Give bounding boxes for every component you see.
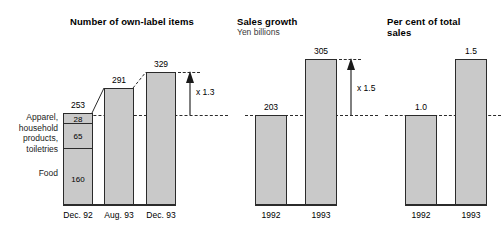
panel3-title: Per cent of total sales [387, 16, 499, 38]
panel3-value-1-5: 1.5 [451, 47, 491, 56]
figure-root: Number of own-label items Apparel, house… [0, 0, 503, 246]
panel2-multiplier-label: x 1.5 [357, 84, 375, 93]
panel2-xlabel-1993: 1993 [298, 211, 344, 220]
panel3-xlabel-1992: 1992 [398, 211, 444, 220]
panel1-xlabel-dec93: Dec. 93 [138, 211, 184, 220]
panel2-multiplier-arrow [235, 0, 385, 246]
panel3-bar-1993[interactable] [455, 59, 487, 205]
panel3-bar-1992[interactable] [405, 115, 437, 205]
panel2-x-axis [255, 204, 337, 206]
panel1-xlabel-dec92: Dec. 92 [55, 211, 101, 220]
panel1-multiplier-label: x 1.3 [196, 88, 214, 97]
panel3-value-1-0: 1.0 [401, 103, 441, 112]
panel3-xlabel-1993: 1993 [448, 211, 494, 220]
panel-sales-growth: Sales growth Yen billions 203 305 x 1.5 … [235, 0, 385, 246]
panel1-x-axis [63, 204, 176, 206]
panel-percent-total-sales: Per cent of total sales 1.0 1.5 1992 199… [385, 0, 503, 246]
panel-own-label-items: Number of own-label items Apparel, house… [0, 0, 235, 246]
panel3-x-axis [405, 204, 487, 206]
panel2-xlabel-1992: 1992 [248, 211, 294, 220]
panel1-xlabel-aug93: Aug. 93 [96, 211, 142, 220]
